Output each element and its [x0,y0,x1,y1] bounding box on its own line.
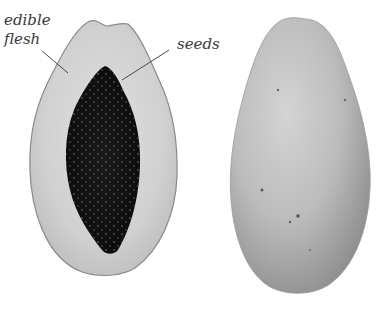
whole-papaya-skin [230,18,370,294]
illustration: edible flesh seeds [0,0,378,309]
skin-blemish [344,99,346,101]
whole-papaya [230,18,370,294]
skin-blemish [309,249,311,251]
edible-flesh-label-line2: flesh [4,31,40,48]
seeds-label: seeds [177,36,220,53]
skin-blemish [261,189,264,192]
skin-blemish [289,221,291,223]
skin-blemish [277,89,279,91]
skin-blemish [296,214,300,218]
edible-flesh-label-line1: edible [4,12,51,29]
